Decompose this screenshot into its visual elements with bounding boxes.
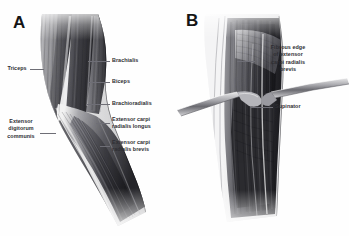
- label-brachialis: Brachialis: [112, 57, 172, 64]
- label-extensor-digitorum-communis: Extensor digitorum communis: [2, 118, 40, 140]
- label-fibrous-edge-ecrb: Fibrous edge of extensor carpi radialis …: [257, 44, 319, 74]
- label-supinator: Supinator: [275, 103, 333, 110]
- leader-ecrl: [96, 123, 110, 124]
- anatomy-figure: A Triceps Brachialis Biceps Brachioradia…: [0, 0, 349, 236]
- leader-fibrous-edge: [237, 61, 255, 62]
- panel-b: B Fibrous edge of extensor carpi radiali…: [175, 0, 349, 236]
- leader-brachialis: [88, 61, 110, 62]
- label-brachioradialis: Brachioradialis: [112, 100, 174, 107]
- panel-a-letter: A: [13, 14, 25, 31]
- leader-supinator: [251, 107, 273, 108]
- label-extensor-carpi-radialis-longus: Extensor carpi radialis longus: [112, 116, 172, 131]
- label-extensor-carpi-radialis-brevis: Extensor carpi radialis brevis: [112, 139, 172, 154]
- leader-ecrb: [100, 146, 110, 147]
- panel-a: A Triceps Brachialis Biceps Brachioradia…: [0, 0, 175, 236]
- leader-edc: [40, 133, 56, 134]
- panel-b-illustration: [175, 0, 349, 236]
- leader-biceps: [88, 82, 110, 83]
- leader-brachioradialis: [86, 104, 110, 105]
- panel-b-letter: B: [186, 12, 198, 29]
- label-triceps: Triceps: [4, 65, 30, 72]
- leader-triceps: [30, 69, 44, 70]
- label-biceps: Biceps: [112, 78, 172, 85]
